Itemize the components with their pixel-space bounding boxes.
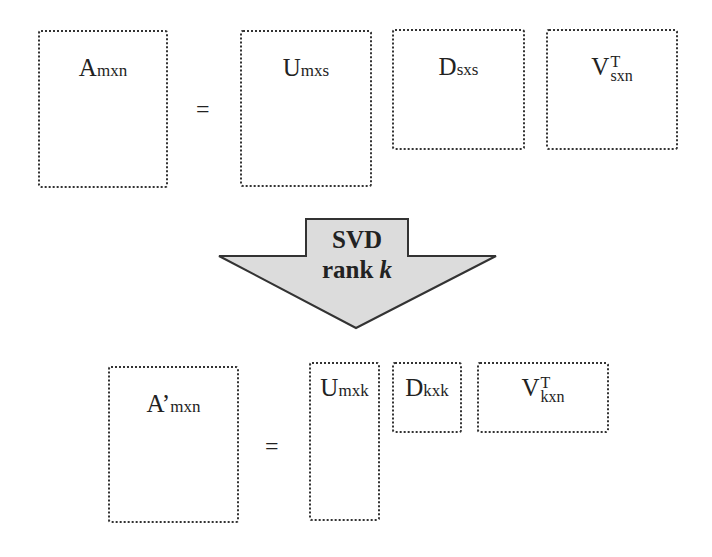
arrow-label: SVD rank k xyxy=(306,225,408,285)
matrix-a-prime-label: A’mxn xyxy=(110,390,237,418)
rank-label: rank k xyxy=(306,255,408,285)
matrix-uk-box: Umxk xyxy=(309,362,380,521)
matrix-a-prime-box: A’mxn xyxy=(108,366,239,523)
matrix-dk-box: Dkxk xyxy=(392,362,462,433)
equals-sign-bottom: = xyxy=(265,433,279,460)
svd-label: SVD xyxy=(306,225,408,255)
matrix-vkt-box: VTkxn xyxy=(477,362,609,433)
matrix-vkt-label: VTkxn xyxy=(479,374,607,404)
matrix-uk-label: Umxk xyxy=(311,374,378,402)
matrix-dk-label: Dkxk xyxy=(394,374,460,402)
